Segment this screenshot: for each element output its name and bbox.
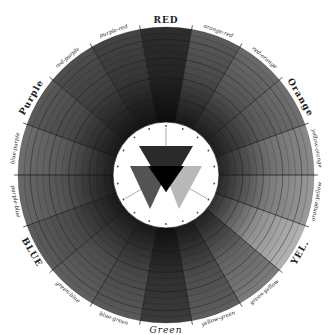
label-green: Green	[150, 325, 183, 335]
color-wheel-diagram: REDorange-redred-orangeOrangeyellow-oran…	[0, 0, 333, 335]
center-disc	[113, 122, 219, 228]
color-wheel-svg: REDorange-redred-orangeOrangeyellow-oran…	[0, 0, 333, 335]
label-red: RED	[153, 15, 178, 25]
